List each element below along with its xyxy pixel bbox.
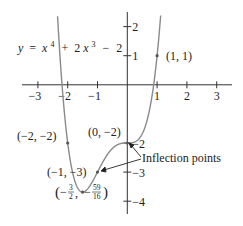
equation-label: y = x 4 + 2 x 3 − 2 [17,36,122,55]
y-tick-label: −3 [132,166,145,180]
y-tick-label: −4 [132,195,145,209]
svg-text:,: , [75,186,78,200]
svg-text:−: − [60,185,67,199]
point-marker [126,141,129,144]
point-marker [156,54,159,57]
point-marker [96,171,99,174]
svg-text:3: 3 [69,183,73,192]
inflection-points-label: Inflection points [142,151,221,165]
function-graph: −3−2−1123 21−2−3−4 y = x 4 + 2 x 3 − 2 (… [0,0,243,226]
point-label-neg1-neg3: (−1, −3) [47,165,87,179]
y-tick-label: 1 [132,49,138,63]
y-ticks: 21−2−3−4 [123,20,145,209]
point-label-0-neg2: (0, −2) [88,125,121,139]
point-label-neg2-neg2: (−2, −2) [17,129,57,143]
x-tick-label: 1 [154,89,160,103]
x-tick-label: −1 [88,89,101,103]
svg-text:59: 59 [93,183,101,192]
svg-text:): ) [103,184,108,201]
y-tick-label: 2 [132,20,138,34]
x-tick-label: 2 [184,89,190,103]
point-marker [66,141,69,144]
x-tick-label: 3 [214,89,220,103]
svg-text:−: − [84,185,91,199]
point-label-1-1: (1, 1) [166,49,192,63]
x-tick-label: −3 [29,89,42,103]
x-tick-label: −2 [58,89,71,103]
svg-text:16: 16 [93,192,101,201]
svg-text:2: 2 [69,192,73,201]
